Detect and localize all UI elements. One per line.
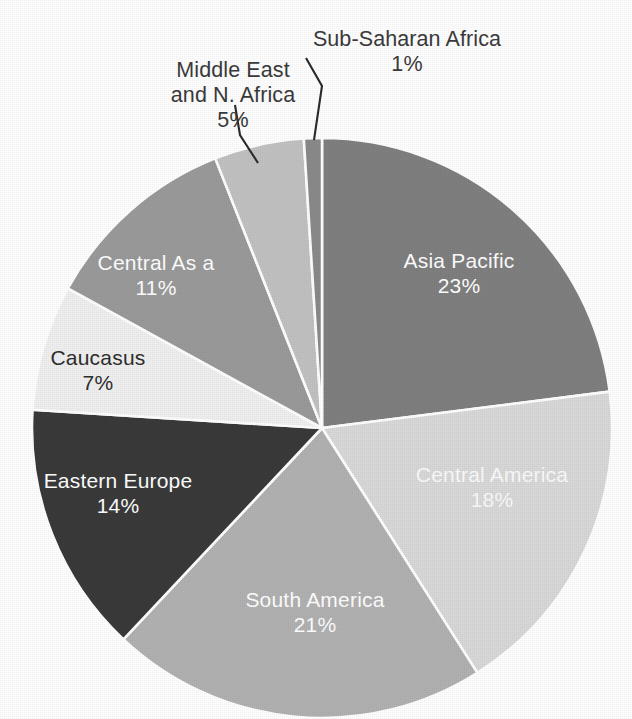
pie-chart: Sub-Saharan Africa 1% Middle East and N.… (0, 0, 632, 719)
slice-callout-sub-saharan-africa-name: Sub-Saharan Africa (313, 27, 501, 51)
slice-callout-middle-east-and-n-africa-percent: 5% (128, 108, 338, 133)
slice-callout-middle-east-and-n-africa-name: Middle East and N. Africa (171, 58, 295, 107)
slice-callout-middle-east-and-n-africa: Middle East and N. Africa 5% (128, 33, 338, 158)
